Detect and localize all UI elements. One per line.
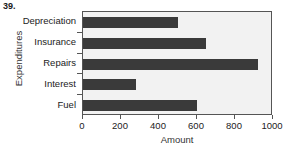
bar: [83, 59, 258, 70]
x-axis-tick: [234, 115, 235, 119]
figure-container: 39. Expenditures DepreciationInsuranceRe…: [0, 0, 292, 156]
x-axis-tick: [120, 115, 121, 119]
x-axis-tick-label: 0: [62, 120, 102, 131]
y-axis-tick: [77, 53, 82, 54]
plot-area: [82, 11, 272, 115]
y-axis-tick: [77, 32, 82, 33]
category-axis-labels: DepreciationInsuranceRepairsInterestFuel: [18, 11, 79, 115]
x-axis-tick: [272, 115, 273, 119]
bar: [83, 79, 136, 90]
x-axis-tick: [196, 115, 197, 119]
x-axis-tick: [158, 115, 159, 119]
bar: [83, 100, 197, 111]
category-label: Repairs: [15, 58, 76, 68]
x-axis-tick-label: 400: [138, 120, 178, 131]
x-axis-tick-label: 800: [214, 120, 254, 131]
x-axis-tick-label: 1000: [252, 120, 292, 131]
category-label: Interest: [15, 79, 76, 89]
y-axis-tick: [77, 94, 82, 95]
bar: [83, 17, 178, 28]
y-axis-tick: [77, 73, 82, 74]
category-label: Insurance: [15, 37, 76, 47]
category-label: Depreciation: [15, 16, 76, 26]
bar: [83, 38, 206, 49]
x-axis-tick-label: 200: [100, 120, 140, 131]
x-axis-title: Amount: [82, 134, 272, 145]
bars-container: [83, 12, 271, 114]
x-axis-tick-label: 600: [176, 120, 216, 131]
x-axis-tick: [82, 115, 83, 119]
category-label: Fuel: [15, 100, 76, 110]
problem-number: 39.: [3, 1, 16, 12]
